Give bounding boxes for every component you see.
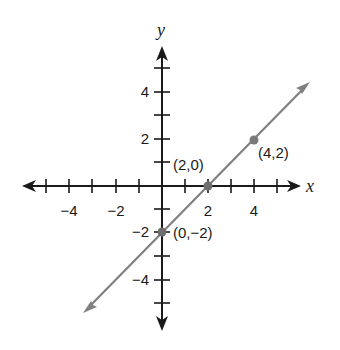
point-0-neg2 (158, 228, 167, 237)
point-label-4-2: (4,2) (258, 144, 289, 161)
coordinate-plane: −4 −2 2 4 x 4 2 −2 −4 y (0, 0, 340, 350)
x-tick-label: −2 (107, 202, 124, 219)
point-label-2-0: (2,0) (173, 156, 204, 173)
point-2-0 (204, 182, 213, 191)
x-tick-label: 2 (204, 202, 212, 219)
y-axis-label: y (155, 20, 165, 40)
x-axis-label: x (305, 176, 314, 196)
y-tick-label: −2 (132, 223, 149, 240)
y-tick-label: 2 (141, 130, 149, 147)
y-tick-label: −4 (132, 271, 149, 288)
x-axis: −4 −2 2 4 x (22, 176, 314, 219)
point-label-0-neg2: (0,−2) (173, 224, 213, 241)
line-upper-arrow-icon (296, 82, 310, 94)
y-tick-label: 4 (141, 83, 149, 100)
x-tick-label: −4 (60, 202, 77, 219)
y-axis: 4 2 −2 −4 y (132, 20, 170, 331)
line-lower-arrow-icon (83, 301, 97, 313)
plotted-line (83, 82, 310, 313)
x-tick-label: 4 (250, 202, 258, 219)
